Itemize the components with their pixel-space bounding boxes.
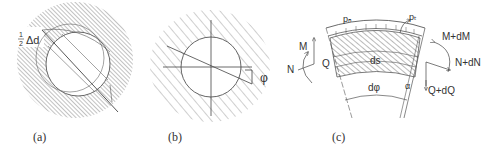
Q-label: Q — [322, 58, 330, 69]
delta-d-label: Δd — [26, 34, 39, 46]
panel-c: pₙ pₜ ds dφ α M N Q M+dM N+dN Q+dQ (c) — [287, 12, 481, 144]
caption-c: (c) — [332, 130, 345, 144]
QdQ-label: Q+dQ — [428, 85, 455, 96]
N-label: N — [287, 64, 294, 75]
ds-label: ds — [370, 55, 381, 66]
NdN-label: N+dN — [455, 57, 481, 68]
panel-b: φ (b) — [150, 10, 270, 144]
panel-a: 1 2 Δd (a) — [16, 2, 133, 144]
figure-canvas: 1 2 Δd (a) φ (b) — [0, 0, 495, 155]
caption-b: (b) — [168, 130, 182, 144]
inner-arc — [345, 95, 407, 100]
alpha-label: α — [405, 81, 410, 91]
half-den: 2 — [19, 40, 23, 47]
dphi-label: dφ — [368, 82, 381, 93]
half-num: 1 — [19, 31, 23, 38]
phi-label: φ — [260, 71, 268, 85]
lining-element — [330, 31, 420, 78]
MdM-label: M+dM — [442, 31, 470, 42]
NdN-arrow — [426, 62, 450, 86]
caption-a: (a) — [33, 130, 46, 144]
tunnel-opening — [46, 32, 110, 96]
M-label: M — [299, 41, 307, 52]
pn-label: pₙ — [343, 14, 352, 24]
pt-label: pₜ — [409, 12, 417, 22]
